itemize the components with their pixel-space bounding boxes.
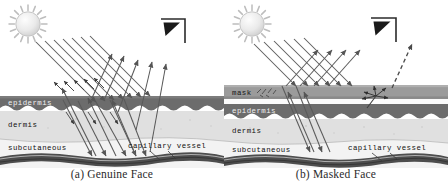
- camera-icon: [371, 18, 396, 42]
- label-mask: mask: [232, 89, 252, 97]
- label-capillary-vessel: capillary vessel: [348, 144, 426, 152]
- caption-masked-face: (b) Masked Face: [224, 168, 448, 180]
- incident-rays-masked: [254, 38, 352, 86]
- label-capillary-vessel: capillary vessel: [128, 142, 206, 150]
- panel-genuine-face: epidermis dermis subcutaneous capillary …: [0, 0, 224, 192]
- label-dermis: dermis: [232, 127, 261, 135]
- incident-rays-genuine: [36, 36, 150, 102]
- figure-root: epidermis dermis subcutaneous capillary …: [0, 0, 448, 192]
- label-subcutaneous: subcutaneous: [232, 146, 291, 154]
- mask-inner-edge: [224, 96, 448, 98]
- dashed-emergent-ray: [392, 44, 412, 88]
- sun-icon: [9, 5, 47, 43]
- label-epidermis: epidermis: [8, 99, 52, 107]
- label-subcutaneous: subcutaneous: [8, 144, 67, 152]
- camera-icon: [161, 19, 185, 43]
- panel-masked-face: mask epidermis dermis subcutaneous capil…: [224, 0, 448, 192]
- mask-surface: [224, 85, 448, 87]
- panel-b-canvas: mask epidermis dermis subcutaneous capil…: [224, 0, 448, 168]
- panel-a-canvas: epidermis dermis subcutaneous capillary …: [0, 0, 224, 168]
- surface-scatter-arrows: [54, 78, 104, 92]
- caption-genuine-face: (a) Genuine Face: [0, 168, 224, 180]
- mask-skin-gap: [224, 99, 448, 104]
- label-epidermis: epidermis: [232, 107, 276, 115]
- label-dermis: dermis: [8, 121, 37, 129]
- sun-icon: [233, 5, 271, 43]
